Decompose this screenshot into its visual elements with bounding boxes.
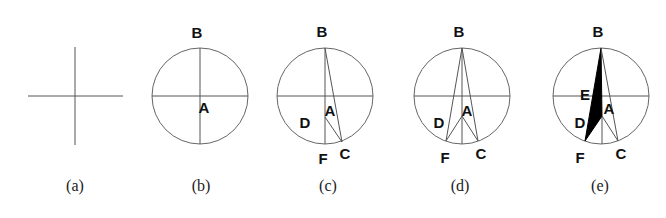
caption-d: (d) (451, 177, 470, 195)
panel-c: B A D F C (c) (277, 23, 373, 195)
label-b: B (192, 24, 203, 41)
line-b-c (325, 48, 342, 142)
label-b: B (593, 23, 604, 40)
panel-e: B E A D F C (e) (553, 23, 649, 195)
panel-d: B A D F C (d) (414, 23, 510, 195)
caption-b: (b) (192, 177, 211, 195)
label-d: D (575, 114, 586, 131)
label-f: F (318, 150, 327, 167)
line-b-c (462, 48, 478, 141)
label-a: A (199, 99, 210, 116)
label-d: D (434, 114, 445, 131)
label-c: C (476, 145, 487, 162)
caption-e: (e) (591, 177, 609, 195)
panel-b: B A (b) (152, 24, 248, 195)
label-f: F (575, 149, 584, 166)
label-e: E (580, 86, 590, 103)
label-b: B (454, 23, 465, 40)
caption-c: (c) (319, 177, 337, 195)
panel-a: (a) (28, 47, 123, 195)
figure-canvas: (a) B A (b) B A D F C (c) B A D F C (0, 0, 666, 218)
label-c: C (616, 145, 627, 162)
label-a: A (462, 102, 473, 119)
label-d: D (300, 114, 311, 131)
label-a: A (325, 102, 336, 119)
label-b: B (317, 23, 328, 40)
caption-a: (a) (66, 177, 84, 195)
label-f: F (440, 149, 449, 166)
label-c: C (340, 145, 351, 162)
line-b-f (446, 48, 462, 141)
label-a: A (604, 100, 615, 117)
